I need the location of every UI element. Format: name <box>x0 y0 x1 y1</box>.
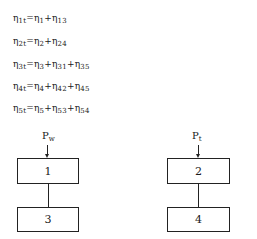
plus-sign: + <box>67 81 75 91</box>
equation-1: η1t=η1+η13 <box>13 13 67 25</box>
connector-2-4 <box>198 184 199 207</box>
subscript: 13 <box>58 17 67 25</box>
subscript: 54 <box>80 107 89 115</box>
subscript: 45 <box>80 85 89 93</box>
equals-sign: = <box>26 103 34 113</box>
connector-1-3 <box>48 184 49 207</box>
plus-sign: + <box>67 103 75 113</box>
subscript: 35 <box>80 63 89 71</box>
subscript: 24 <box>58 40 67 48</box>
subscript: 42 <box>58 85 67 93</box>
block-label: 3 <box>45 213 52 226</box>
block-3: 3 <box>17 207 79 232</box>
power-symbol: P <box>192 130 199 141</box>
input-label-pt: Pt <box>192 130 202 143</box>
block-2: 2 <box>167 158 230 184</box>
subscript: 53 <box>58 107 67 115</box>
block-4: 4 <box>167 207 230 232</box>
equation-5: η5t=η5+η53+η54 <box>13 103 90 115</box>
input-label-pw: Pw <box>42 130 55 143</box>
subscript: 31 <box>58 63 67 71</box>
equation-4: η4t=η4+η42+η45 <box>13 81 90 93</box>
block-label: 1 <box>45 165 52 178</box>
equation-3: η3t=η3+η31+η35 <box>13 59 90 71</box>
equals-sign: = <box>26 13 34 23</box>
equals-sign: = <box>26 81 34 91</box>
equals-sign: = <box>26 59 34 69</box>
block-label: 4 <box>195 213 202 226</box>
plus-sign: + <box>44 81 52 91</box>
power-symbol: P <box>42 130 49 141</box>
block-label: 2 <box>195 165 202 178</box>
subscript: t <box>199 135 202 143</box>
plus-sign: + <box>44 36 52 46</box>
block-1: 1 <box>17 158 79 184</box>
equation-2: η2t=η2+η24 <box>13 36 67 48</box>
plus-sign: + <box>67 59 75 69</box>
subscript: w <box>49 135 55 143</box>
equals-sign: = <box>26 36 34 46</box>
plus-sign: + <box>44 103 52 113</box>
plus-sign: + <box>44 13 52 23</box>
plus-sign: + <box>44 59 52 69</box>
